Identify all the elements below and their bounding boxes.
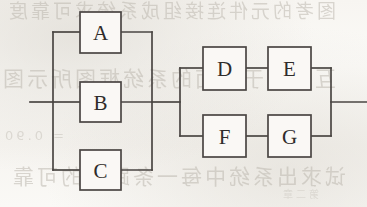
block-g: G: [268, 115, 311, 157]
block-label-d: D: [217, 57, 232, 81]
block-label-c: C: [93, 159, 107, 183]
diagram-canvas: ABCDEFG: [0, 0, 367, 207]
block-label-g: G: [282, 125, 297, 149]
block-layer: ABCDEFG: [80, 12, 311, 190]
block-d: D: [203, 47, 246, 90]
block-a: A: [80, 12, 121, 53]
block-c: C: [80, 150, 121, 190]
block-e: E: [268, 47, 311, 90]
block-label-a: A: [93, 21, 109, 45]
block-b: B: [80, 82, 121, 122]
block-label-b: B: [93, 91, 107, 115]
block-f: F: [203, 115, 246, 157]
reliability-block-diagram-figure: 图考的元件连接组成系统求可靠度 互，对于下面的系统框图所示图 = 0.90 试求…: [0, 0, 367, 207]
block-label-e: E: [283, 57, 296, 81]
block-label-f: F: [219, 125, 231, 149]
